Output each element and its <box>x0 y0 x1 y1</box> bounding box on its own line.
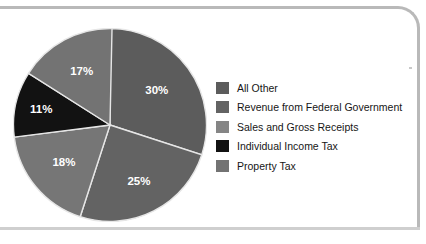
pie-slice-label: 17% <box>70 65 93 77</box>
pie-slice-label: 30% <box>145 84 168 96</box>
legend-swatch-icon <box>216 82 229 94</box>
legend-swatch-icon <box>216 101 229 113</box>
chart-page: 30%25%18%11%17% All OtherRevenue from Fe… <box>0 0 426 244</box>
legend-item[interactable]: Property Tax <box>216 156 416 176</box>
legend-swatch-icon <box>216 140 229 152</box>
legend-swatch-icon <box>216 121 229 133</box>
pie-chart: 30%25%18%11%17% All OtherRevenue from Fe… <box>0 10 418 226</box>
page-frame-bottom-border <box>0 227 420 230</box>
legend-item-label: All Other <box>237 83 278 94</box>
pie-slice-label: 11% <box>30 103 52 115</box>
legend-swatch-icon <box>216 160 229 172</box>
legend-item[interactable]: Sales and Gross Receipts <box>216 117 416 137</box>
pie-svg: 30%25%18%11%17% <box>13 28 207 222</box>
pie-slice-label: 25% <box>127 175 150 187</box>
legend-item[interactable]: Individual Income Tax <box>216 137 416 157</box>
pie-slice-label: 18% <box>52 156 75 168</box>
legend-item-label: Revenue from Federal Government <box>237 102 402 113</box>
legend-item[interactable]: Revenue from Federal Government <box>216 98 416 118</box>
legend-item[interactable]: All Other <box>216 78 416 98</box>
chart-legend: All OtherRevenue from Federal Government… <box>216 78 416 176</box>
page-frame-top-border <box>0 6 390 9</box>
legend-item-label: Sales and Gross Receipts <box>237 122 358 133</box>
pie-graphic: 30%25%18%11%17% <box>13 28 207 222</box>
legend-item-label: Individual Income Tax <box>237 141 338 152</box>
legend-item-label: Property Tax <box>237 161 296 172</box>
